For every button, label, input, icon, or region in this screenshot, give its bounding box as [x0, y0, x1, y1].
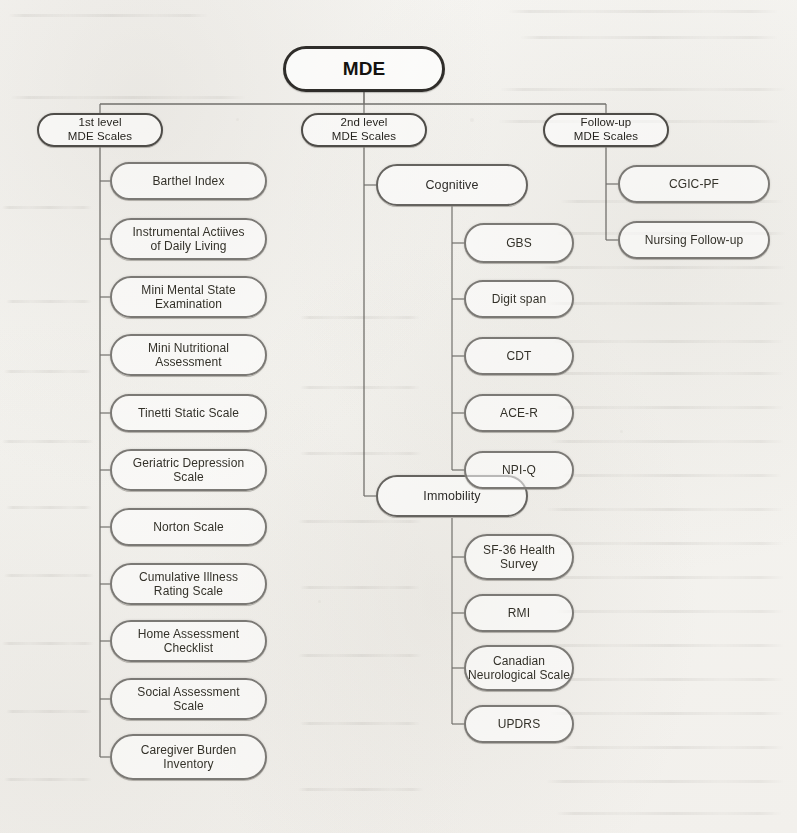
node-digit-span[interactable]: Digit span [464, 280, 574, 318]
node-label: MDE [343, 58, 386, 80]
node-follow-up-scales[interactable]: Follow-up MDE Scales [543, 113, 669, 147]
node-label: Mini Mental State Examination [141, 283, 235, 311]
node-label: SF-36 Health Survey [483, 543, 555, 571]
node-label: Follow-up MDE Scales [574, 116, 638, 143]
node-label: 1st level MDE Scales [68, 116, 132, 143]
node-label: Barthel Index [152, 174, 224, 188]
node-label: Mini Nutritional Assessment [148, 341, 229, 369]
node-cdt[interactable]: CDT [464, 337, 574, 375]
node-label: GBS [506, 236, 532, 250]
node-label: CDT [507, 349, 532, 363]
node-home-assessment-checklist[interactable]: Home Assessment Checklist [110, 620, 267, 662]
node-label: ACE-R [500, 406, 538, 420]
node-label: UPDRS [498, 717, 541, 731]
node-label: 2nd level MDE Scales [332, 116, 396, 143]
node-label: Norton Scale [153, 520, 224, 534]
node-mmse[interactable]: Mini Mental State Examination [110, 276, 267, 318]
node-label: RMI [508, 606, 530, 620]
node-label: Canadian Neurological Scale [468, 654, 570, 682]
node-norton-scale[interactable]: Norton Scale [110, 508, 267, 546]
node-barthel-index[interactable]: Barthel Index [110, 162, 267, 200]
node-label: Home Assessment Checklist [138, 627, 240, 655]
node-cognitive[interactable]: Cognitive [376, 164, 528, 206]
node-nursing-follow-up[interactable]: Nursing Follow-up [618, 221, 770, 259]
node-second-level-scales[interactable]: 2nd level MDE Scales [301, 113, 427, 147]
node-label: Social Assessment Scale [137, 685, 239, 713]
node-ace-r[interactable]: ACE-R [464, 394, 574, 432]
node-label: Nursing Follow-up [645, 233, 743, 247]
node-label: Immobility [423, 489, 480, 504]
node-label: Instrumental Actiives of Daily Living [132, 225, 244, 253]
node-rmi[interactable]: RMI [464, 594, 574, 632]
node-social-assessment-scale[interactable]: Social Assessment Scale [110, 678, 267, 720]
node-first-level-scales[interactable]: 1st level MDE Scales [37, 113, 163, 147]
node-mde-root[interactable]: MDE [283, 46, 445, 92]
node-gbs[interactable]: GBS [464, 223, 574, 263]
node-npi-q[interactable]: NPI-Q [464, 451, 574, 489]
node-label: Caregiver Burden Inventory [141, 743, 237, 771]
node-label: Digit span [492, 292, 546, 306]
node-label: Cognitive [425, 178, 478, 193]
node-geriatric-depression-scale[interactable]: Geriatric Depression Scale [110, 449, 267, 491]
node-tinetti-static-scale[interactable]: Tinetti Static Scale [110, 394, 267, 432]
node-label: CGIC-PF [669, 177, 719, 191]
node-cumulative-illness-rating-scale[interactable]: Cumulative Illness Rating Scale [110, 563, 267, 605]
node-cgic-pf[interactable]: CGIC-PF [618, 165, 770, 203]
node-label: NPI-Q [502, 463, 536, 477]
node-canadian-neurological-scale[interactable]: Canadian Neurological Scale [464, 645, 574, 691]
node-label: Tinetti Static Scale [138, 406, 239, 420]
node-label: Cumulative Illness Rating Scale [139, 570, 238, 598]
node-iadl[interactable]: Instrumental Actiives of Daily Living [110, 218, 267, 260]
node-mna[interactable]: Mini Nutritional Assessment [110, 334, 267, 376]
node-sf36-health-survey[interactable]: SF-36 Health Survey [464, 534, 574, 580]
node-caregiver-burden-inventory[interactable]: Caregiver Burden Inventory [110, 734, 267, 780]
node-updrs[interactable]: UPDRS [464, 705, 574, 743]
node-label: Geriatric Depression Scale [133, 456, 244, 484]
diagram-canvas: MDE 1st level MDE Scales 2nd level MDE S… [0, 0, 797, 833]
